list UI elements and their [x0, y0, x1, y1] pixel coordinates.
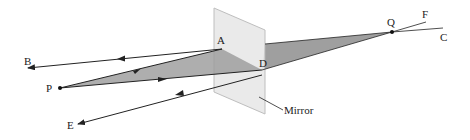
- point-Q: [390, 30, 394, 34]
- label-B: B: [24, 55, 31, 67]
- label-E: E: [67, 119, 74, 131]
- label-Q: Q: [387, 16, 395, 28]
- arrow-DE-mid: [175, 90, 184, 96]
- label-A: A: [217, 34, 225, 46]
- diagram-svg: A B C D E F P Q Mirror: [0, 0, 470, 140]
- label-P: P: [46, 82, 52, 94]
- label-C: C: [440, 31, 447, 43]
- point-P: [58, 86, 62, 90]
- label-F: F: [422, 8, 428, 20]
- label-mirror: Mirror: [284, 104, 314, 116]
- arrow-AB-mid: [117, 56, 125, 62]
- ray-diagram: A B C D E F P Q Mirror: [0, 0, 470, 140]
- label-D: D: [259, 57, 267, 69]
